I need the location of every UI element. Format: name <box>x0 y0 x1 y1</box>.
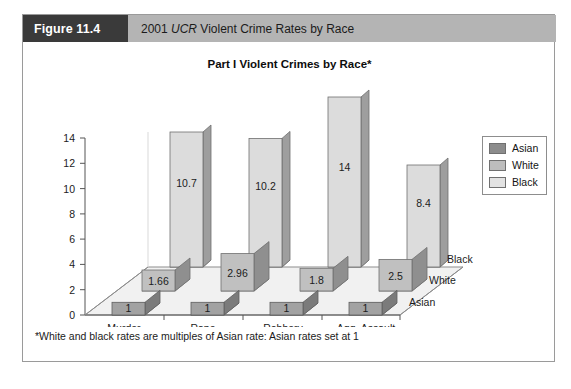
figure-caption: 2001 UCR Violent Crime Rates by Race <box>128 15 556 42</box>
y-tick-label: 6 <box>69 233 75 245</box>
figure-footnote: *White and black rates are multiples of … <box>35 330 359 342</box>
bar-black-agg-assault: 8.4 <box>407 158 448 267</box>
bar-value-label: 1 <box>363 302 369 314</box>
legend-item-asian[interactable]: Asian <box>489 142 540 154</box>
y-tick-label: 14 <box>63 132 75 144</box>
bar-value-label: 1 <box>205 302 211 314</box>
bar-white-agg-assault: 2.5 <box>379 247 427 291</box>
y-tick-label: 8 <box>69 208 75 220</box>
bar-value-label: 1.66 <box>148 275 169 287</box>
x-axis-ticks <box>164 315 400 320</box>
x-category-label: Robbery <box>263 322 303 327</box>
figure-header: Figure 11.4 2001 UCR Violent Crime Rates… <box>23 15 556 42</box>
bar-value-label: 1 <box>284 302 290 314</box>
legend-label-white: White <box>512 159 539 171</box>
y-tick-label: 4 <box>69 258 75 270</box>
y-tick-label: 2 <box>69 284 75 296</box>
bar-black-rape: 10.2 <box>249 131 290 267</box>
caption-prefix: 2001 <box>141 22 171 36</box>
bar-black-robbery: 14 <box>328 90 369 267</box>
y-tick-label: 0 <box>69 309 75 321</box>
caption-suffix: Violent Crime Rates by Race <box>197 22 354 36</box>
legend-swatch-asian <box>489 143 506 154</box>
bar-value-label: 10.2 <box>255 180 276 192</box>
bar-black-murder: 10.7 <box>170 125 211 267</box>
figure-number-badge: Figure 11.4 <box>23 15 128 42</box>
bar-value-label: 2.5 <box>388 270 403 282</box>
y-axis-ticks: 0 2 4 6 8 10 12 14 <box>63 132 85 321</box>
x-category-label: Rape <box>190 322 215 327</box>
legend-swatch-black <box>489 177 506 188</box>
bar-value-label: 14 <box>339 161 351 173</box>
legend-label-asian: Asian <box>512 142 538 154</box>
depth-label-black: Black <box>447 253 473 265</box>
y-tick-label: 12 <box>63 157 75 169</box>
bar-value-label: 8.4 <box>416 197 431 209</box>
chart-title: Part I Violent Crimes by Race* <box>23 58 556 70</box>
x-axis-category-labels: Murder Rape Robbery Agg. Assault <box>107 322 395 327</box>
depth-label-asian: Asian <box>409 296 435 308</box>
legend-item-black[interactable]: Black <box>489 176 540 188</box>
caption-italic-ucr: UCR <box>171 22 197 36</box>
legend-item-white[interactable]: White <box>489 159 540 171</box>
depth-label-white: White <box>429 274 456 286</box>
x-category-label: Agg. Assault <box>337 322 395 327</box>
legend-label-black: Black <box>512 176 538 188</box>
legend-swatch-white <box>489 160 506 171</box>
bar-value-label: 2.96 <box>227 267 248 279</box>
bar-value-label: 1 <box>126 302 132 314</box>
chart-legend: Asian White Black <box>482 136 547 195</box>
bar-value-label: 1.8 <box>309 274 324 286</box>
figure-container: Figure 11.4 2001 UCR Violent Crime Rates… <box>22 14 555 362</box>
x-category-label: Murder <box>107 322 141 327</box>
chart-plot-area: 0 2 4 6 8 10 12 14 10.7 <box>23 77 556 327</box>
y-tick-label: 10 <box>63 183 75 195</box>
bar-white-rape: 2.96 <box>221 242 269 291</box>
bar-value-label: 10.7 <box>176 177 197 189</box>
